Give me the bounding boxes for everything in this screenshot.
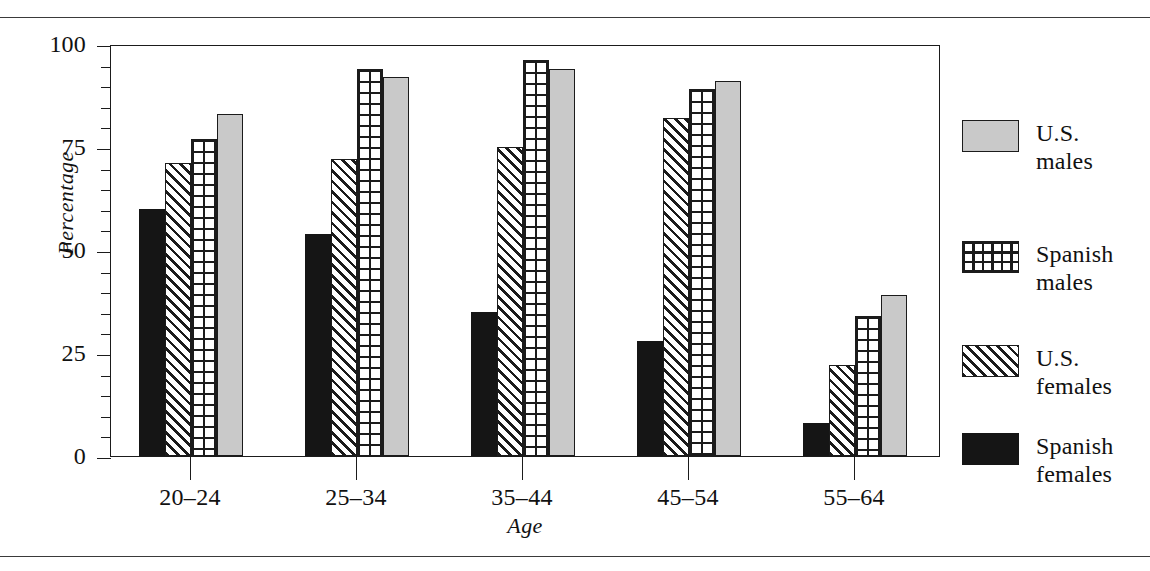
y-axis-tick-minor (101, 211, 111, 212)
y-axis-tick-minor (101, 417, 111, 418)
y-axis-tick-minor (101, 190, 111, 191)
legend-swatch (962, 120, 1019, 152)
x-axis-tick (522, 457, 523, 480)
y-axis-title: Percentage (53, 133, 79, 273)
bar (357, 69, 383, 456)
y-axis-tick-minor (101, 87, 111, 88)
bar (549, 69, 575, 456)
bar (663, 118, 689, 456)
plot-area (110, 45, 940, 457)
bar (139, 209, 165, 456)
bar (331, 159, 357, 456)
x-axis-tick-label: 35–44 (491, 484, 553, 511)
bar (383, 77, 409, 456)
y-axis-tick-minor (101, 170, 111, 171)
legend-item: Spanish males (962, 241, 1113, 296)
y-axis-tick-label: 25 (62, 340, 86, 367)
figure-bottom-rule (0, 556, 1150, 557)
x-axis-tick-label: 55–64 (823, 484, 885, 511)
x-axis-tick-label: 25–34 (325, 484, 387, 511)
bar (829, 365, 855, 456)
bar (165, 163, 191, 456)
legend-label: Spanish males (1036, 241, 1113, 296)
figure-top-rule (0, 17, 1150, 18)
legend-swatch (962, 241, 1019, 273)
legend-swatch (962, 345, 1019, 377)
bar (637, 341, 663, 456)
y-axis-tick-minor (101, 334, 111, 335)
bar (689, 89, 715, 456)
x-axis-tick (356, 457, 357, 480)
y-axis-tick-major (97, 355, 111, 356)
legend-swatch (962, 433, 1019, 465)
legend-label: U.S. males (1036, 120, 1093, 175)
bar (855, 316, 881, 456)
y-axis-tick-minor (101, 376, 111, 377)
legend-item: U.S. males (962, 120, 1093, 175)
bar (305, 234, 331, 456)
chart-legend: U.S. malesSpanish malesU.S. femalesSpani… (962, 45, 1150, 457)
y-axis-tick-minor (101, 437, 111, 438)
bar (471, 312, 497, 456)
x-axis-title: Age (110, 513, 940, 539)
y-axis-tick-minor (101, 128, 111, 129)
y-axis-tick-label: 0 (74, 443, 86, 470)
y-axis-tick-major (97, 46, 111, 47)
bar (191, 139, 217, 456)
x-axis-tick (190, 457, 191, 480)
y-axis-tick-minor (101, 314, 111, 315)
y-axis-tick-label: 100 (49, 31, 86, 58)
y-axis-tick-minor (101, 231, 111, 232)
x-axis-tick (854, 457, 855, 480)
x-axis-tick-label: 20–24 (159, 484, 221, 511)
y-axis-tick-minor (101, 273, 111, 274)
bar (715, 81, 741, 456)
legend-label: U.S. females (1036, 345, 1112, 400)
y-axis-tick-minor (101, 108, 111, 109)
bar (523, 60, 549, 456)
bar (803, 423, 829, 456)
y-axis-tick-major (97, 252, 111, 253)
bar (881, 295, 907, 456)
x-axis-tick (688, 457, 689, 480)
legend-item: Spanish females (962, 433, 1113, 488)
y-axis-tick-major (97, 458, 111, 459)
legend-item: U.S. females (962, 345, 1112, 400)
legend-label: Spanish females (1036, 433, 1113, 488)
x-axis-tick-label: 45–54 (657, 484, 719, 511)
y-axis-tick-minor (101, 396, 111, 397)
y-axis-tick-minor (101, 67, 111, 68)
bar (217, 114, 243, 456)
y-axis-tick-major (97, 149, 111, 150)
y-axis-tick-minor (101, 293, 111, 294)
bar (497, 147, 523, 456)
